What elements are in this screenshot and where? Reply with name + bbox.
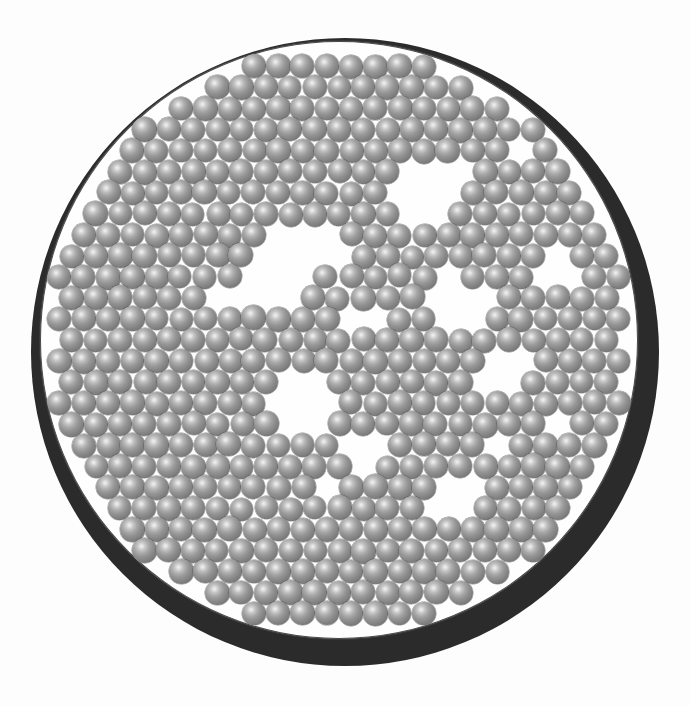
bead (71, 265, 94, 288)
bead (412, 602, 436, 626)
bead (339, 390, 363, 414)
bead (424, 76, 448, 100)
bead (120, 306, 145, 331)
bead (218, 138, 242, 162)
bead (218, 391, 242, 415)
bead (157, 412, 181, 436)
bead (363, 181, 387, 205)
bead (582, 433, 607, 458)
bead (193, 559, 217, 583)
bead (303, 496, 326, 519)
bead (534, 348, 558, 372)
bead (194, 307, 217, 330)
bead (254, 411, 279, 436)
bead (328, 76, 352, 100)
bead (133, 285, 157, 309)
bead (375, 412, 398, 435)
bead (216, 432, 240, 456)
bead (413, 349, 436, 372)
bead (303, 160, 327, 184)
bead (460, 432, 485, 457)
bead (242, 97, 266, 121)
bead (473, 202, 497, 226)
bead (558, 307, 582, 331)
bead (72, 434, 95, 457)
bead (108, 496, 131, 519)
bead (108, 243, 132, 267)
figure-canvas (0, 0, 690, 706)
bead (205, 581, 229, 605)
bead (558, 475, 582, 499)
bead (315, 307, 339, 331)
bead (352, 327, 376, 351)
bead (570, 328, 593, 351)
bead (400, 284, 424, 308)
bead (278, 159, 302, 183)
bead (72, 306, 97, 331)
bead (436, 432, 461, 457)
bead (412, 432, 436, 456)
bead (351, 412, 375, 436)
bead (279, 203, 303, 227)
bead (327, 117, 351, 141)
bead (290, 54, 314, 78)
bead (229, 581, 252, 604)
bead (169, 559, 193, 583)
bead (242, 602, 265, 625)
bead (267, 517, 290, 540)
bead (83, 201, 108, 226)
bead (558, 223, 582, 247)
bead (120, 390, 145, 415)
bead (266, 348, 291, 373)
bead (351, 286, 376, 311)
bead (108, 328, 132, 352)
bead (158, 243, 181, 266)
bead (120, 433, 144, 457)
bead (339, 517, 363, 541)
bead (375, 328, 399, 352)
bead (424, 327, 448, 351)
bead (509, 180, 533, 204)
bead (169, 180, 192, 203)
bead (230, 370, 254, 394)
bead (522, 202, 545, 225)
bead (424, 580, 449, 605)
bead (315, 54, 339, 78)
bead (595, 328, 619, 352)
bead (241, 180, 265, 204)
bead (436, 349, 460, 373)
bead (157, 117, 181, 141)
bead (59, 370, 83, 394)
bead (461, 265, 485, 289)
bead (120, 138, 144, 162)
bead (109, 202, 132, 225)
bead (315, 601, 339, 625)
bead (168, 265, 191, 288)
bead (157, 286, 181, 310)
bead (486, 560, 509, 583)
bead (570, 201, 594, 225)
bead (376, 202, 399, 225)
bead (302, 117, 327, 142)
bead (218, 264, 242, 288)
bead (328, 495, 352, 519)
bead (266, 54, 290, 78)
bead (545, 159, 569, 183)
bead (449, 581, 473, 605)
bead (376, 286, 401, 311)
bead (570, 411, 594, 435)
bead (497, 244, 520, 267)
bead (254, 370, 278, 394)
bead (181, 496, 205, 520)
bead (182, 286, 206, 310)
bead (509, 222, 533, 246)
bead (461, 391, 485, 415)
bead (546, 370, 569, 393)
bead (424, 117, 448, 141)
bead (254, 202, 278, 226)
bead (229, 75, 253, 99)
bead (364, 517, 388, 541)
bead (229, 327, 253, 351)
bead (412, 517, 437, 542)
bead (376, 539, 400, 563)
